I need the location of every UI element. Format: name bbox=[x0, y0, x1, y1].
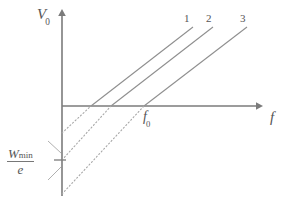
work-function-numerator: Wmin bbox=[7, 147, 34, 162]
graph-canvas bbox=[0, 0, 295, 212]
work-function-tick bbox=[48, 141, 66, 180]
y-axis bbox=[58, 9, 66, 196]
work-function-denominator: e bbox=[7, 162, 34, 176]
series-line-2 bbox=[62, 27, 213, 160]
series-label-1: 1 bbox=[184, 13, 190, 24]
series-label-3: 3 bbox=[240, 13, 246, 24]
work-function-subscript: min bbox=[19, 150, 33, 160]
series-label-2: 2 bbox=[206, 13, 212, 24]
y-axis-label: V0 bbox=[37, 7, 51, 25]
threshold-frequency-subscript: 0 bbox=[146, 119, 150, 129]
series-line-1 bbox=[62, 27, 193, 133]
threshold-frequency-label: f0 bbox=[143, 110, 151, 126]
work-function-symbol: W bbox=[8, 146, 19, 161]
x-axis bbox=[62, 102, 263, 110]
series-line-3 bbox=[62, 27, 247, 194]
work-function-label: Wmin e bbox=[7, 147, 34, 176]
y-axis-label-subscript: 0 bbox=[45, 17, 50, 27]
photoelectric-graph-figure: V0 f f0 1 2 3 Wmin e bbox=[0, 0, 295, 212]
x-axis-label: f bbox=[270, 110, 274, 125]
